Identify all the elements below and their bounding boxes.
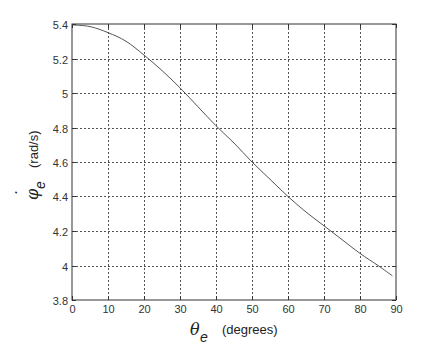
x-label-symbol: θ — [190, 320, 200, 339]
x-tick-label: 60 — [282, 303, 294, 315]
x-label-subscript: e — [200, 329, 208, 345]
x-axis-label: θ e (degrees) — [190, 320, 278, 345]
y-tick-label: 5.4 — [53, 19, 68, 31]
y-tick-label: 4.2 — [53, 226, 68, 238]
x-tick-label: 40 — [210, 303, 222, 315]
line-chart: 0102030405060708090 3.844.24.44.64.855.2… — [0, 0, 421, 357]
y-tick-label: 4.8 — [53, 123, 68, 135]
x-tick-label: 80 — [354, 303, 366, 315]
y-tick-label: 4.4 — [53, 191, 68, 203]
y-tick-label: 4.6 — [53, 157, 68, 169]
y-tick-label: 4 — [62, 261, 68, 273]
y-tick-label: 5.2 — [53, 54, 68, 66]
x-tick-label: 20 — [138, 303, 150, 315]
x-tick-label: 30 — [174, 303, 186, 315]
y-tick-label: 5 — [62, 88, 68, 100]
x-tick-label: 10 — [102, 303, 114, 315]
x-tick-label: 90 — [390, 303, 402, 315]
y-axis-label: φ ˙ e (rad/s) — [13, 130, 48, 200]
y-label-subscript: e — [32, 181, 48, 189]
x-label-unit: (degrees) — [222, 322, 278, 337]
y-label-dot: ˙ — [13, 190, 32, 198]
y-label-unit: (rad/s) — [26, 130, 41, 168]
x-tick-label: 70 — [318, 303, 330, 315]
x-tick-label: 50 — [246, 303, 258, 315]
x-tick-label: 0 — [69, 303, 75, 315]
y-tick-label: 3.8 — [53, 295, 68, 307]
